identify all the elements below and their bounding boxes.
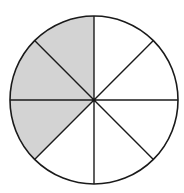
sector-divider-line (94, 100, 153, 159)
shaded-sector (10, 100, 94, 159)
fraction-circle-diagram (0, 0, 184, 193)
center-point (92, 98, 96, 102)
sector-divider-line (94, 41, 153, 100)
